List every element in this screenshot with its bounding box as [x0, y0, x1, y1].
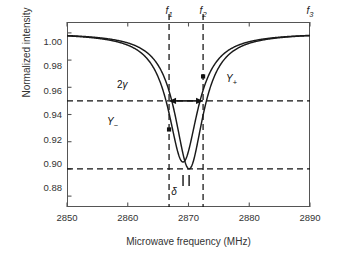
x-axis-title: Microwave frequency (MHz) [67, 236, 310, 247]
x-tick-label: 2870 [169, 212, 209, 223]
frequency-marker-label-f3: f3 [295, 5, 325, 19]
chart-figure: Normalized intensity 1.00 0.98 0.96 0.94… [0, 0, 337, 257]
splitting-annotation-label: δ [171, 186, 177, 197]
linewidth-annotation-label: 2γ [117, 79, 128, 90]
horizontal-reference-lines [67, 101, 310, 169]
y-minus-annotation-label: Y− [107, 116, 118, 130]
y-tick-label: 0.96 [22, 84, 62, 95]
y-tick-label: 0.98 [22, 60, 62, 71]
plot-svg [67, 22, 310, 207]
y-plus-annotation-label: Y+ [226, 73, 237, 87]
splitting-tick-marks [183, 175, 189, 186]
x-tick-label: 2880 [229, 212, 269, 223]
plot-area [67, 22, 310, 207]
x-tick-label: 2860 [108, 212, 148, 223]
y-tick-label: 0.92 [22, 133, 62, 144]
y-tick-label: 1.00 [22, 36, 62, 47]
y-tick-label: 0.88 [22, 182, 62, 193]
y-tick-label: 0.94 [22, 109, 62, 120]
x-tick-label: 2850 [47, 212, 87, 223]
resonance-curves [67, 35, 310, 168]
x-tick-label: 2890 [290, 212, 330, 223]
linewidth-arrow [169, 98, 203, 104]
y-tick-label: 0.90 [22, 158, 62, 169]
